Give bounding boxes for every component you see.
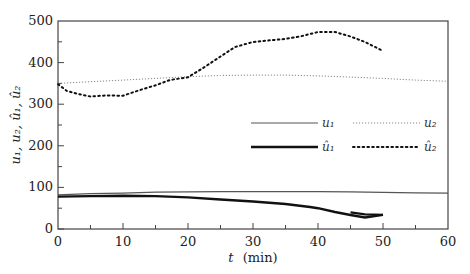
y-tick-0: 0 bbox=[45, 221, 53, 236]
legend-label-u-hat-2: û₂ bbox=[424, 140, 437, 154]
legend: u₁ u₂ û₁ û₂ bbox=[251, 116, 437, 154]
x-tick-0: 0 bbox=[54, 234, 62, 249]
series-u2 bbox=[58, 75, 448, 83]
x-tick-20: 20 bbox=[180, 234, 197, 249]
plot-frame bbox=[58, 21, 448, 229]
x-axis-ticks bbox=[91, 223, 416, 229]
x-tick-10: 10 bbox=[115, 234, 132, 249]
y-axis-ticks bbox=[58, 42, 64, 229]
series-u-hat-2 bbox=[58, 32, 383, 97]
y-tick-300: 300 bbox=[28, 96, 53, 111]
y-tick-200: 200 bbox=[28, 138, 53, 153]
x-tick-40: 40 bbox=[310, 234, 327, 249]
y-axis-label: u₁, u₂, û₁, û₂ bbox=[8, 85, 23, 164]
legend-label-u-hat-1: û₁ bbox=[322, 140, 335, 154]
y-tick-400: 400 bbox=[28, 55, 53, 70]
series-u1 bbox=[58, 192, 448, 195]
line-chart: 0 100 200 300 400 500 0 10 20 30 40 50 6… bbox=[0, 0, 470, 274]
x-axis-label: t (min) bbox=[228, 247, 277, 266]
y-tick-labels: 0 100 200 300 400 500 bbox=[28, 13, 53, 236]
legend-label-u2: u₂ bbox=[424, 116, 437, 130]
x-tick-30: 30 bbox=[245, 234, 262, 249]
x-tick-labels: 0 10 20 30 40 50 60 bbox=[54, 234, 456, 249]
series-u-hat-1 bbox=[58, 196, 383, 218]
x-tick-50: 50 bbox=[375, 234, 392, 249]
legend-label-u1: u₁ bbox=[322, 116, 335, 130]
y-tick-500: 500 bbox=[28, 13, 53, 28]
x-tick-60: 60 bbox=[440, 234, 457, 249]
y-tick-100: 100 bbox=[28, 179, 53, 194]
series-u-hat-1-tail bbox=[351, 212, 384, 215]
